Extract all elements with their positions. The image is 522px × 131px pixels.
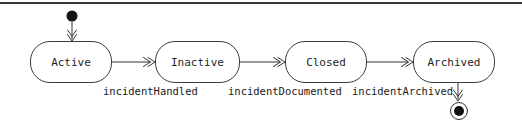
initial-state-icon bbox=[67, 11, 78, 22]
transition-label-incident-handled: incidentHandled bbox=[103, 85, 198, 98]
state-diagram: Active Inactive Closed Archived incident… bbox=[0, 0, 522, 131]
state-closed: Closed bbox=[285, 41, 367, 83]
arrow-initial-to-active bbox=[68, 22, 77, 41]
transition-label-incident-archived: incidentArchived bbox=[352, 85, 453, 98]
arrow-inactive-to-closed bbox=[240, 58, 285, 67]
arrow-active-to-inactive bbox=[112, 58, 155, 67]
state-inactive: Inactive bbox=[155, 41, 240, 83]
state-archived: Archived bbox=[413, 41, 495, 83]
final-state-icon bbox=[451, 103, 468, 120]
arrow-closed-to-archived bbox=[367, 58, 413, 67]
transition-label-incident-documented: incidentDocumented bbox=[228, 85, 342, 98]
state-active: Active bbox=[30, 41, 112, 83]
arrow-archived-to-final bbox=[454, 83, 463, 101]
